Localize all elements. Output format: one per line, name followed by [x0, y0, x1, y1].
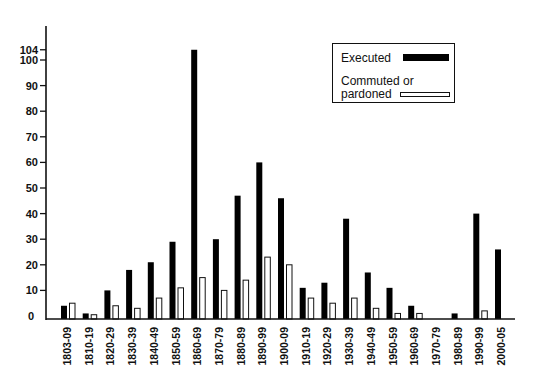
- legend-commuted-label-line2: pardoned: [341, 87, 392, 101]
- bar-executed: [495, 249, 501, 319]
- x-category-label: 1880-89: [235, 327, 247, 366]
- x-category-label: 1860-69: [191, 327, 203, 366]
- bar-executed: [83, 313, 89, 319]
- bar-executed: [278, 198, 284, 319]
- x-category-label: 1960-69: [408, 327, 420, 366]
- bar-chart: 0102030405060708090100104 1803-091810-19…: [0, 0, 539, 382]
- x-axis: 1803-091810-191820-291830-391840-491850-…: [46, 319, 515, 366]
- y-tick-label: 100: [20, 54, 38, 66]
- bar-commuted: [135, 308, 141, 319]
- bar-commuted: [395, 313, 401, 319]
- bar-executed: [321, 283, 327, 319]
- bar-commuted: [417, 313, 423, 319]
- bar-commuted: [221, 290, 227, 319]
- bar-executed: [104, 290, 110, 319]
- x-category-label: 1840-49: [148, 327, 160, 366]
- bar-executed: [191, 50, 197, 319]
- bar-commuted: [308, 298, 314, 319]
- x-category-label: 1803-09: [61, 327, 73, 366]
- x-category-label: 1980-89: [452, 327, 464, 366]
- y-tick-label: 0: [28, 310, 34, 322]
- bar-executed: [452, 313, 458, 319]
- bar-commuted: [373, 308, 379, 319]
- x-category-label: 1900-09: [278, 327, 290, 366]
- x-category-label: 1810-19: [83, 327, 95, 366]
- y-tick-label: 104: [20, 44, 39, 56]
- legend: Executed Commuted or pardoned: [332, 43, 455, 103]
- y-tick-label: 70: [26, 131, 38, 143]
- bar-executed: [387, 288, 393, 319]
- bar-executed: [235, 196, 241, 319]
- legend-executed-swatch: [403, 54, 449, 61]
- y-tick-label: 30: [26, 233, 38, 245]
- x-category-label: 1820-29: [104, 327, 116, 366]
- bar-executed: [343, 219, 349, 319]
- y-tick-label: 60: [26, 156, 38, 168]
- x-category-label: 1870-79: [213, 327, 225, 366]
- bar-executed: [473, 214, 479, 319]
- bar-commuted: [70, 303, 76, 319]
- bar-commuted: [113, 306, 119, 319]
- bar-commuted: [156, 298, 162, 319]
- bar-commuted: [482, 311, 488, 319]
- bar-executed: [170, 242, 176, 319]
- x-category-label: 1920-29: [321, 327, 333, 366]
- bar-commuted: [265, 257, 271, 319]
- x-category-label: 1830-39: [126, 327, 138, 366]
- x-category-label: 1910-19: [300, 327, 312, 366]
- x-category-label: 2000-05: [495, 327, 507, 366]
- bar-executed: [300, 288, 306, 319]
- x-category-label: 1890-99: [256, 327, 268, 366]
- bar-executed: [126, 270, 132, 319]
- bar-commuted: [200, 278, 206, 319]
- bar-executed: [256, 162, 262, 319]
- bar-commuted: [243, 280, 249, 319]
- y-tick-label: 90: [26, 80, 38, 92]
- x-category-label: 1930-39: [343, 327, 355, 366]
- x-category-label: 1950-59: [387, 327, 399, 366]
- y-tick-label: 40: [26, 208, 38, 220]
- legend-commuted-swatch: [400, 92, 450, 97]
- bar-executed: [148, 262, 154, 319]
- y-tick-label: 10: [26, 284, 38, 296]
- x-category-label: 1940-49: [365, 327, 377, 366]
- legend-commuted-label-line1: Commuted or: [341, 74, 414, 88]
- bar-commuted: [178, 288, 184, 319]
- legend-executed-label: Executed: [341, 51, 391, 65]
- bar-commuted: [287, 265, 293, 319]
- x-category-label: 1970-79: [430, 327, 442, 366]
- bar-executed: [213, 239, 219, 319]
- bar-commuted: [330, 303, 336, 319]
- y-tick-label: 50: [26, 182, 38, 194]
- bar-commuted: [352, 298, 358, 319]
- bar-executed: [61, 306, 67, 319]
- bar-executed: [408, 306, 414, 319]
- x-category-label: 1990-99: [473, 327, 485, 366]
- x-category-label: 1850-59: [170, 327, 182, 366]
- bar-executed: [365, 272, 371, 319]
- y-tick-label: 80: [26, 105, 38, 117]
- y-axis: 0102030405060708090100104: [20, 26, 46, 322]
- y-tick-label: 20: [26, 259, 38, 271]
